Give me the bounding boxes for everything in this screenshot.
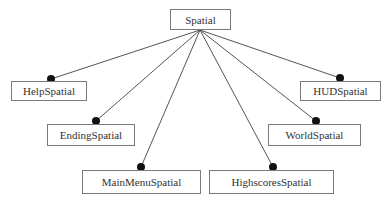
inheritance-edge <box>200 30 316 121</box>
node-spatial: Spatial <box>170 9 231 30</box>
node-highscores-spatial: HighscoresSpatial <box>209 170 334 194</box>
node-world-spatial: WorldSpatial <box>268 124 361 146</box>
inheritance-edge <box>200 30 340 78</box>
node-ending-spatial: EndingSpatial <box>47 124 135 146</box>
node-label: MainMenuSpatial <box>102 176 181 188</box>
node-label: HUDSpatial <box>313 85 367 97</box>
node-label: HelpSpatial <box>23 85 75 97</box>
node-label: WorldSpatial <box>286 129 344 141</box>
inheritance-edge <box>200 30 273 167</box>
node-label: EndingSpatial <box>60 129 122 141</box>
node-help-spatial: HelpSpatial <box>11 81 87 101</box>
inheritance-edge <box>96 30 200 121</box>
node-label: HighscoresSpatial <box>231 176 311 188</box>
node-label: Spatial <box>185 14 216 26</box>
inheritance-diagram: Spatial HelpSpatial EndingSpatial MainMe… <box>0 0 390 204</box>
inheritance-edge <box>141 30 200 167</box>
node-mainmenu-spatial: MainMenuSpatial <box>82 170 201 194</box>
node-hud-spatial: HUDSpatial <box>300 81 381 101</box>
inheritance-edge <box>51 30 200 79</box>
